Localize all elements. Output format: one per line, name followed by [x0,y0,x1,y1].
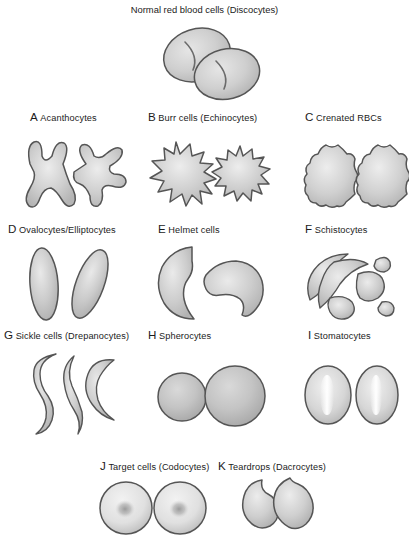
panel-crenated-rbcs [300,140,405,220]
panel-label-b: BBurr cells (Echinocytes) [148,110,257,123]
panel-sickle-cells [18,350,133,440]
sickle-cell [34,354,56,434]
panel-title-h: Spherocytes [159,331,211,341]
ovalocyte-cell [28,247,61,321]
panel-title-a: Acanthocytes [40,113,96,123]
panel-letter-f: F [305,222,312,235]
blood-cell-morphology-figure: Normal red blood cells (Discocytes) AAca… [0,0,409,541]
panel-burr-cells [140,136,275,222]
schistocyte-fragment [328,297,354,319]
acanthocyte-cell [26,142,75,207]
panel-normal-discocytes [155,18,265,110]
helmet-cell [158,247,194,319]
panel-title-i: Stomatocytes [314,331,371,341]
sickle-cell [64,356,83,434]
teardrop-cell [274,478,313,529]
panel-letter-i: I [308,328,311,341]
panel-stomatocytes [300,355,405,435]
panel-title-g: Sickle cells (Drepanocytes) [16,331,130,341]
crenated-cell [356,145,409,207]
acanthocyte-cell [74,144,126,206]
panel-title-f: Schistocytes [315,225,368,235]
panel-label-c: CCrenated RBCs [305,110,382,123]
panel-letter-e: E [158,222,166,235]
schistocyte-fragment [374,257,390,272]
panel-letter-d: D [8,222,16,235]
sickle-cell [86,360,114,420]
schistocyte-fragment [356,272,384,301]
panel-label-e: EHelmet cells [158,222,220,235]
panel-helmet-cells [148,243,273,325]
panel-label-k: KTeardrops (Dacrocytes) [218,459,326,472]
target-cell [100,482,152,534]
schistocyte-fragment [378,302,394,316]
spherocyte-cell [205,366,265,426]
panel-letter-g: G [4,328,13,341]
panel-letter-a: A [30,110,38,123]
panel-letter-b: B [148,110,156,123]
stomatocyte-cell [356,366,398,424]
panel-ovalocytes [22,243,127,325]
panel-label-j: JTarget cells (Codocytes) [100,459,209,472]
panel-label-i: IStomatocytes [308,328,371,341]
panel-title-b: Burr cells (Echinocytes) [158,113,257,123]
panel-label-f: FSchistocytes [305,222,367,235]
panel-letter-c: C [305,110,313,123]
panel-target-cells [98,478,208,540]
panel-title-c: Crenated RBCs [316,113,382,123]
target-cell [154,482,206,534]
panel-label-a: AAcanthocytes [30,110,97,123]
stomatocyte-cell [305,366,351,424]
panel-title-e: Helmet cells [168,225,219,235]
echinocyte-cell [212,146,270,201]
figure-title: Normal red blood cells (Discocytes) [0,4,409,15]
spherocyte-cell [158,373,206,421]
panel-title-j: Target cells (Codocytes) [108,462,209,472]
panel-label-d: DOvalocytes/Elliptocytes [8,222,116,235]
crenated-cell [304,145,358,207]
panel-letter-j: J [100,459,106,472]
panel-letter-h: H [148,328,156,341]
panel-teardrops [232,476,327,540]
panel-schistocytes [290,240,405,328]
panel-spherocytes [155,357,270,435]
panel-label-h: HSpherocytes [148,328,211,341]
panel-letter-k: K [218,459,226,472]
panel-title-k: Teardrops (Dacrocytes) [228,462,326,472]
helmet-cell [204,261,263,316]
elliptocyte-cell [65,245,116,322]
echinocyte-cell [150,142,216,206]
panel-acanthocytes [8,134,133,222]
panel-title-d: Ovalocytes/Elliptocytes [19,225,116,235]
panel-label-g: GSickle cells (Drepanocytes) [4,328,129,341]
